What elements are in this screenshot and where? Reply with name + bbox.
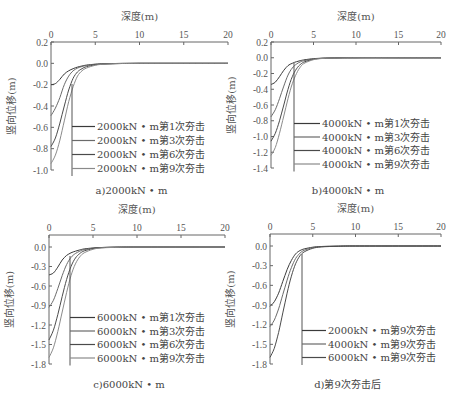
y-tick-label: -1.5 xyxy=(31,340,46,350)
x-tick-label: 15 xyxy=(176,223,186,233)
x-tick-label: 15 xyxy=(394,30,404,40)
y-tick-label: -1.2 xyxy=(252,320,267,330)
x-tick-label: 20 xyxy=(220,223,230,233)
y-tick-label: 0.0 xyxy=(255,242,267,252)
y-tick-label: -0.8 xyxy=(33,144,48,154)
x-tick-label: 10 xyxy=(132,223,142,233)
series-line xyxy=(49,247,225,275)
series-line xyxy=(51,63,228,84)
x-tick-label: 0 xyxy=(269,30,274,40)
x-tick-label: 10 xyxy=(135,30,145,40)
x-tick-label: 10 xyxy=(351,222,361,232)
x-tick-label: 15 xyxy=(394,222,404,232)
x-tick-label: 5 xyxy=(91,223,96,233)
legend-label: 2000kN • m第9次夯击 xyxy=(328,324,436,336)
panel-caption: d)第9次夯击后 xyxy=(314,378,381,390)
legend-label: 2000kN • m第9次夯击 xyxy=(97,162,205,174)
y-tick-label: -0.9 xyxy=(252,301,267,311)
y-tick-label: -0.6 xyxy=(252,281,267,291)
series-line xyxy=(270,246,441,327)
y-tick-label: -1.0 xyxy=(253,132,268,142)
y-tick-label: -0.2 xyxy=(33,80,48,90)
panel-c-chart: 深度(m)051015200.0-0.3-0.6-0.9-1.2-1.5-1.8… xyxy=(3,203,230,390)
x-tick-label: 5 xyxy=(310,222,315,232)
y-tick-label: -1.2 xyxy=(253,148,268,158)
x-axis-title: 深度(m) xyxy=(337,10,374,22)
series-line xyxy=(270,246,441,306)
x-tick-label: 0 xyxy=(47,223,52,233)
y-tick-label: 0.2 xyxy=(36,38,48,48)
legend-label: 6000kN • m第9次夯击 xyxy=(97,352,205,364)
y-tick-label: -0.4 xyxy=(253,85,268,95)
y-tick-label: -1.5 xyxy=(252,340,267,350)
y-axis-title: 竖向位移(m) xyxy=(225,76,237,133)
y-axis-title: 竖向位移(m) xyxy=(3,271,15,328)
y-tick-label: -1.8 xyxy=(31,360,46,370)
x-tick-label: 5 xyxy=(93,30,98,40)
y-tick-label: 0.0 xyxy=(256,53,268,63)
legend-label: 6000kN • m第3次夯击 xyxy=(97,325,205,337)
x-tick-label: 10 xyxy=(351,30,361,40)
y-tick-label: 0.0 xyxy=(34,243,46,253)
legend-label: 2000kN • m第1次夯击 xyxy=(97,120,205,132)
y-tick-label: -0.8 xyxy=(253,116,268,126)
x-tick-label: 20 xyxy=(436,30,446,40)
legend-label: 6000kN • m第1次夯击 xyxy=(97,311,205,323)
panel-caption: a)2000kN • m xyxy=(96,185,168,196)
y-tick-label: -1.4 xyxy=(253,164,268,174)
y-tick-label: -0.3 xyxy=(252,261,267,271)
y-tick-label: -0.3 xyxy=(31,262,46,272)
y-tick-label: -1.2 xyxy=(31,321,46,331)
x-tick-label: 0 xyxy=(49,30,54,40)
legend-label: 6000kN • m第6次夯击 xyxy=(97,338,205,350)
x-tick-label: 5 xyxy=(311,30,316,40)
y-axis-title: 竖向位移(m) xyxy=(224,270,236,327)
panel-a-chart: 深度(m)051015200.20.0-0.2-0.4-0.6-0.8-1.0竖… xyxy=(5,10,233,196)
x-axis-title: 深度(m) xyxy=(121,10,158,22)
y-tick-label: -0.9 xyxy=(31,301,46,311)
legend-label: 4000kN • m第3次夯击 xyxy=(322,131,430,143)
x-axis-title: 深度(m) xyxy=(337,202,374,214)
panel-b-chart: 深度(m)051015200.20.0-0.2-0.4-0.6-0.8-1.0-… xyxy=(225,10,446,196)
y-tick-label: -1.8 xyxy=(252,360,267,370)
panel-caption: b)4000kN • m xyxy=(312,185,385,196)
panel-caption: c)6000kN • m xyxy=(93,379,165,390)
x-tick-label: 20 xyxy=(223,30,233,40)
y-tick-label: -1.0 xyxy=(33,166,48,176)
legend-label: 4000kN • m第9次夯击 xyxy=(322,158,430,170)
legend-label: 4000kN • m第9次夯击 xyxy=(328,338,436,350)
legend-label: 6000kN • m第9次夯击 xyxy=(328,351,436,363)
series-line xyxy=(271,58,441,85)
x-tick-label: 20 xyxy=(436,222,446,232)
legend-label: 4000kN • m第6次夯击 xyxy=(322,144,430,156)
x-tick-label: 0 xyxy=(268,222,273,232)
panel-d-chart: 深度(m)051015200.0-0.3-0.6-0.9-1.2-1.5-1.8… xyxy=(224,202,446,390)
figure: 深度(m)051015200.20.0-0.2-0.4-0.6-0.8-1.0竖… xyxy=(0,0,465,404)
series-line xyxy=(49,247,225,307)
y-tick-label: -0.4 xyxy=(33,102,48,112)
x-axis-title: 深度(m) xyxy=(118,203,155,215)
legend-label: 2000kN • m第6次夯击 xyxy=(97,148,205,160)
x-tick-label: 15 xyxy=(179,30,189,40)
legend-label: 4000kN • m第1次夯击 xyxy=(322,117,430,129)
series-line xyxy=(271,58,441,117)
y-tick-label: -0.2 xyxy=(253,69,268,79)
y-tick-label: -0.6 xyxy=(31,282,46,292)
y-tick-label: 0.0 xyxy=(36,59,48,69)
y-tick-label: -0.6 xyxy=(253,101,268,111)
y-tick-label: 0.2 xyxy=(256,38,268,48)
y-axis-title: 竖向位移(m) xyxy=(5,77,17,134)
y-tick-label: -0.6 xyxy=(33,123,48,133)
legend-label: 2000kN • m第3次夯击 xyxy=(97,134,205,146)
